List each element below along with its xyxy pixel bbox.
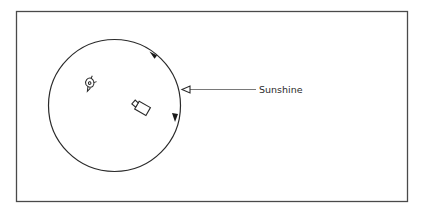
sunshine-label: Sunshine [259,84,303,95]
diagram-canvas: Sunshine [0,0,424,214]
figure-frame [17,12,408,202]
